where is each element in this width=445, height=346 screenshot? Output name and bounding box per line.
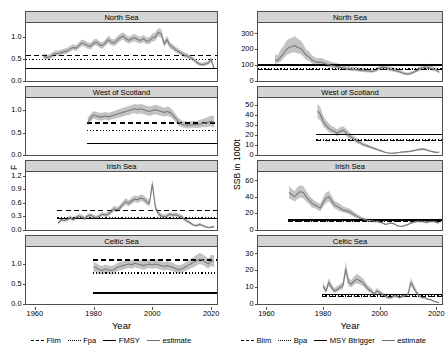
panel-ssb-north-sea: North Sea xyxy=(257,11,443,84)
legend-key-dashed-line xyxy=(31,337,44,344)
x-tick-label-3: 2020 xyxy=(197,310,225,318)
panel-f-north-sea: North Sea xyxy=(25,11,218,84)
left-column-fishing-mortality: F North Sea0.00.51.0West of Scotland0.00… xyxy=(0,0,222,346)
panel-strip-title-f-west-of-scotland: West of Scotland xyxy=(25,86,218,97)
panel-f-celtic-sea: Celtic Sea xyxy=(25,235,218,308)
panel-f-west-of-scotland: West of Scotland xyxy=(25,86,218,159)
x-axis-label-right: Year xyxy=(257,320,443,331)
y-tick-mark xyxy=(23,155,26,156)
plot-area-f-west-of-scotland xyxy=(25,97,218,157)
legend-label: FMSY xyxy=(119,336,140,345)
y-tick-mark xyxy=(255,197,258,198)
y-tick-mark xyxy=(255,125,258,126)
y-tick-mark xyxy=(255,135,258,136)
legend-right: BlimBpaMSY Btriggerestimate xyxy=(222,336,445,345)
panel-f-irish-sea: Irish Sea xyxy=(25,160,218,233)
panel-ssb-celtic-sea: Celtic Sea xyxy=(257,235,443,308)
panels-right: North Sea0100200300West of Scotland01020… xyxy=(222,0,445,346)
y-tick-mark xyxy=(255,253,258,254)
y-tick-mark xyxy=(255,115,258,116)
legend-item-bpa: Bpa xyxy=(278,336,307,345)
y-tick-label-f-west-of-scotland-2: 1.0 xyxy=(0,106,22,113)
y-tick-mark xyxy=(255,304,258,305)
y-tick-label-ssb-irish-sea-1: 20 xyxy=(230,209,254,216)
legend-label: Blim xyxy=(256,336,271,345)
panels-left: North Sea0.00.51.0West of Scotland0.00.5… xyxy=(0,0,222,346)
y-tick-label-f-irish-sea-4: 1.2 xyxy=(0,172,22,179)
y-tick-label-f-west-of-scotland-0: 0.0 xyxy=(0,151,22,158)
y-tick-mark xyxy=(255,270,258,271)
panel-strip-title-ssb-west-of-scotland: West of Scotland xyxy=(257,86,443,97)
legend-label: Bpa xyxy=(294,336,308,345)
y-tick-mark xyxy=(23,110,26,111)
plot-area-f-celtic-sea xyxy=(25,246,218,306)
legend-item-flim: Flim xyxy=(31,336,61,345)
plot-area-f-north-sea xyxy=(25,22,218,82)
y-tick-mark xyxy=(255,145,258,146)
legend-item-msy-btrigger: MSY Btrigger xyxy=(314,336,375,345)
legend-key-grey-solid-line xyxy=(382,337,395,344)
plot-area-f-irish-sea xyxy=(25,171,218,231)
panel-strip-title-f-north-sea: North Sea xyxy=(25,11,218,22)
y-tick-mark xyxy=(23,59,26,60)
legend-key-dotted-line xyxy=(68,337,81,344)
y-tick-mark xyxy=(23,37,26,38)
panel-ssb-irish-sea: Irish Sea xyxy=(257,160,443,233)
y-tick-label-f-north-sea-2: 1.0 xyxy=(0,33,22,40)
y-tick-label-ssb-west-of-scotland-1: 10 xyxy=(230,141,254,148)
legend-item-blim: Blim xyxy=(241,336,271,345)
legend-label: estimate xyxy=(397,336,426,345)
y-tick-label-f-north-sea-0: 0.0 xyxy=(0,77,22,84)
panel-ssb-west-of-scotland: West of Scotland xyxy=(257,86,443,159)
legend-label: Flim xyxy=(46,336,60,345)
y-tick-label-f-celtic-sea-2: 1.0 xyxy=(0,260,22,267)
y-tick-mark xyxy=(23,284,26,285)
plot-area-ssb-irish-sea xyxy=(257,171,443,231)
x-tick-label-2: 2000 xyxy=(366,310,394,318)
y-tick-label-f-west-of-scotland-1: 0.5 xyxy=(0,129,22,136)
legend-label: Fpa xyxy=(83,336,96,345)
y-tick-label-ssb-celtic-sea-1: 10 xyxy=(230,283,254,290)
y-tick-label-ssb-celtic-sea-2: 20 xyxy=(230,266,254,273)
y-tick-label-ssb-west-of-scotland-4: 40 xyxy=(230,111,254,118)
y-tick-label-ssb-north-sea-1: 100 xyxy=(230,61,254,68)
y-tick-label-ssb-irish-sea-3: 60 xyxy=(230,177,254,184)
panel-strip-title-f-irish-sea: Irish Sea xyxy=(25,160,218,171)
panel-strip-title-ssb-irish-sea: Irish Sea xyxy=(257,160,443,171)
plot-area-ssb-north-sea xyxy=(257,22,443,82)
plot-area-ssb-celtic-sea xyxy=(257,246,443,306)
x-tick-label-0: 1960 xyxy=(252,310,280,318)
y-tick-label-ssb-west-of-scotland-2: 20 xyxy=(230,131,254,138)
y-tick-mark xyxy=(255,105,258,106)
y-tick-label-ssb-west-of-scotland-0: 0 xyxy=(230,151,254,158)
y-tick-mark xyxy=(23,81,26,82)
y-tick-mark xyxy=(255,213,258,214)
y-tick-mark xyxy=(23,304,26,305)
legend-key-dashed-line xyxy=(241,337,254,344)
y-tick-label-ssb-celtic-sea-3: 30 xyxy=(230,250,254,257)
figure-panel-grid: F North Sea0.00.51.0West of Scotland0.00… xyxy=(0,0,445,346)
x-tick-label-1: 1980 xyxy=(309,310,337,318)
y-tick-label-f-irish-sea-2: 0.6 xyxy=(0,199,22,206)
y-tick-mark xyxy=(255,230,258,231)
legend-item-fpa: Fpa xyxy=(68,336,97,345)
right-column-spawning-stock-biomass: SSB in 1000t North Sea0100200300West of … xyxy=(222,0,445,346)
y-tick-mark xyxy=(23,176,26,177)
legend-key-dotted-line xyxy=(278,337,291,344)
legend-label: MSY Btrigger xyxy=(330,336,375,345)
legend-label: estimate xyxy=(162,336,191,345)
y-tick-mark xyxy=(255,180,258,181)
y-tick-mark xyxy=(255,65,258,66)
panel-strip-title-f-celtic-sea: Celtic Sea xyxy=(25,235,218,246)
y-tick-label-ssb-west-of-scotland-3: 30 xyxy=(230,121,254,128)
y-tick-label-ssb-irish-sea-0: 0 xyxy=(230,226,254,233)
legend-key-solid-line xyxy=(314,337,327,344)
y-tick-label-ssb-north-sea-0: 0 xyxy=(230,77,254,84)
y-tick-label-f-irish-sea-0: 0.0 xyxy=(0,226,22,233)
x-axis-label-left: Year xyxy=(25,320,218,331)
y-tick-label-f-celtic-sea-0: 0.0 xyxy=(0,300,22,307)
plot-area-ssb-west-of-scotland xyxy=(257,97,443,157)
legend-item-estimate: estimate xyxy=(382,336,426,345)
y-tick-label-f-irish-sea-3: 0.9 xyxy=(0,185,22,192)
y-tick-label-f-irish-sea-1: 0.3 xyxy=(0,212,22,219)
